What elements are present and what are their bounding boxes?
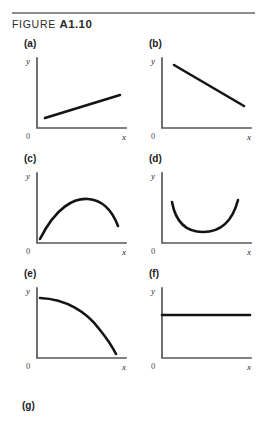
panel-b-y-label: y: [150, 56, 155, 66]
panel-b-axes: [162, 58, 251, 128]
panel-c-curve: [40, 199, 118, 239]
panel-a-plot: y x 0: [14, 52, 134, 144]
panel-d-label: (d): [149, 153, 162, 164]
panel-f-axes: [162, 288, 251, 358]
panel-e: (e) y x 0: [14, 268, 134, 374]
panel-a-y-label: y: [25, 56, 30, 66]
panel-f-label: (f): [149, 268, 159, 279]
panel-c: (c) y x 0: [14, 153, 134, 259]
panel-b-curve: [174, 65, 244, 106]
panel-d-origin-label: 0: [151, 246, 155, 256]
panel-f: (f) y x 0: [139, 268, 259, 374]
panel-c-label: (c): [24, 153, 36, 164]
panel-c-y-label: y: [25, 171, 30, 181]
figure-caption: FIGURE A1.10: [12, 18, 92, 30]
figure-caption-prefix: FIGURE: [12, 18, 56, 30]
panel-b-origin-label: 0: [151, 131, 155, 141]
panel-a-x-label: x: [121, 132, 126, 142]
panel-d-x-label: x: [246, 247, 251, 257]
panel-e-plot: y x 0: [14, 282, 134, 374]
panel-c-x-label: x: [121, 247, 126, 257]
panel-e-y-label: y: [25, 286, 30, 296]
panel-d: (d) y x 0: [139, 153, 259, 259]
panel-e-x-label: x: [121, 362, 126, 372]
panel-e-origin-label: 0: [26, 361, 30, 371]
panel-c-axes: [37, 173, 126, 243]
panel-a-curve: [45, 95, 120, 118]
panel-c-plot: y x 0: [14, 167, 134, 259]
panel-b-plot: y x 0: [139, 52, 259, 144]
panel-d-y-label: y: [150, 171, 155, 181]
panel-a: (a) y x 0: [14, 38, 134, 144]
panel-e-curve: [40, 298, 116, 354]
panel-d-curve: [172, 200, 238, 232]
panel-c-origin-label: 0: [26, 246, 30, 256]
panel-a-origin-label: 0: [26, 131, 30, 141]
header-rule: [12, 12, 255, 14]
panel-b-label: (b): [149, 38, 162, 49]
panel-d-plot: y x 0: [139, 167, 259, 259]
figure-caption-number: A1.10: [60, 18, 93, 30]
panel-b: (b) y x 0: [139, 38, 259, 144]
figure-page: FIGURE A1.10 (a) y x 0 (b) y x 0: [0, 0, 264, 421]
panel-b-x-label: x: [246, 132, 251, 142]
panel-e-label: (e): [24, 268, 36, 279]
panel-a-label: (a): [24, 38, 36, 49]
panel-f-plot: y x 0: [139, 282, 259, 374]
panel-f-y-label: y: [150, 286, 155, 296]
panel-f-x-label: x: [246, 362, 251, 372]
panel-f-origin-label: 0: [151, 361, 155, 371]
panel-g-label: (g): [22, 400, 35, 411]
